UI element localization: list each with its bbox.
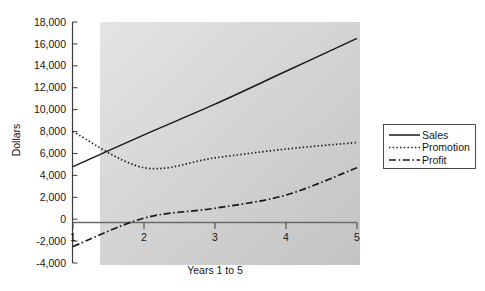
x-tick-label: 4 [283,231,289,243]
y-tick-label: 8,000 [40,125,66,137]
y-tick-label: 6,000 [40,147,66,159]
y-tick-label: 10,000 [34,103,66,115]
y-tick-label: 12,000 [34,81,66,93]
y-tick-label: 18,000 [34,16,66,28]
chart-figure: 18,00016,00014,00012,00010,0008,0006,000… [0,0,485,291]
x-tick-label: 3 [212,231,218,243]
legend: SalesPromotionProfit [384,125,476,169]
x-axis-label: Years 1 to 5 [187,264,243,276]
y-tick-label: 16,000 [34,38,66,50]
legend-label-promotion: Promotion [422,141,470,153]
legend-label-sales: Sales [422,129,448,141]
y-tick-label: -2,000 [36,235,66,247]
y-tick-label: 14,000 [34,59,66,71]
y-tick-label: 2,000 [40,191,66,203]
y-tick-label: -4,000 [36,257,66,269]
plot-background [100,22,360,265]
x-tick-label: 5 [354,231,360,243]
legend-label-profit: Profit [422,154,447,166]
x-tick-label: 1 [70,231,76,243]
y-tick-label: 0 [60,213,66,225]
y-tick-label: 4,000 [40,169,66,181]
x-tick-label: 2 [141,231,147,243]
y-axis-label: Dollars [10,124,22,157]
